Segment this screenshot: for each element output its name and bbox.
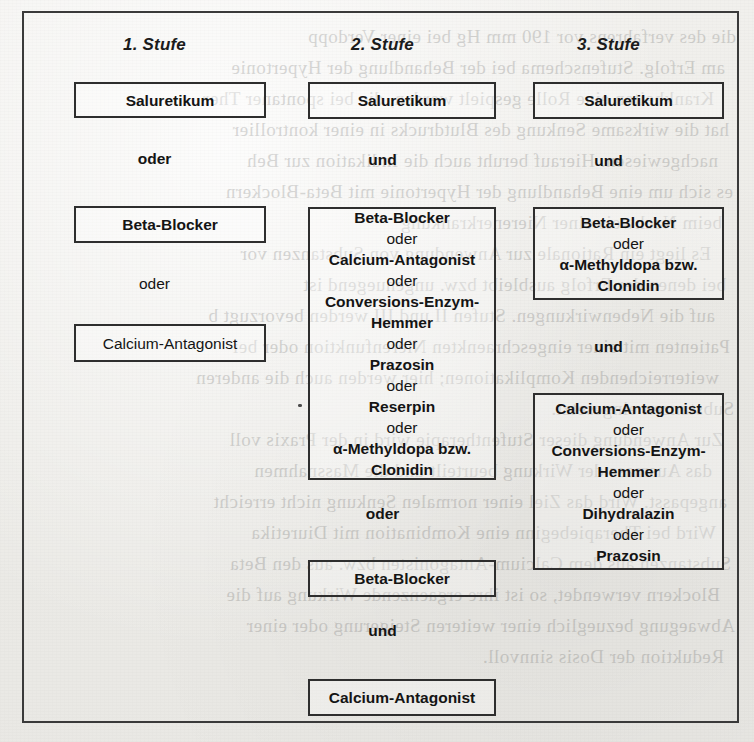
drug-box-conjunction: oder [386, 270, 417, 291]
drug-name: Calcium-Antagonist [555, 398, 701, 419]
drug-name: Dihydralazin [582, 503, 674, 524]
stage-connector: und [492, 152, 725, 170]
drug-name: Prazosin [596, 545, 661, 566]
scan-speck [298, 404, 302, 407]
drug-name: Conversions-Enzym- [325, 291, 479, 312]
stage-header-2: 2. Stufe [266, 35, 499, 55]
stage-connector: oder [266, 505, 499, 523]
drug-name: Conversions-Enzym- [551, 440, 705, 461]
drug-box: Calcium-Antagonist [74, 324, 266, 362]
drug-name: Clonidin [371, 459, 433, 480]
stage-header-1: 1. Stufe [38, 35, 271, 55]
drug-box: Beta-BlockeroderCalcium-AntagonistoderCo… [308, 207, 496, 480]
drug-box: Calcium-Antagonist [308, 679, 496, 716]
drug-box-conjunction: oder [613, 419, 644, 440]
drug-name: Beta-Blocker [354, 207, 450, 228]
drug-box: Calcium-AntagonistoderConversions-Enzym-… [533, 393, 724, 570]
drug-box-conjunction: oder [386, 417, 417, 438]
drug-name: Beta-Blocker [581, 212, 677, 233]
drug-box: Saluretikum [533, 82, 724, 119]
stage-header-3: 3. Stufe [492, 35, 725, 55]
drug-name: Hemmer [371, 312, 433, 333]
drug-name: Calcium-Antagonist [329, 687, 475, 708]
drug-box: Beta-Blockeroderα-Methyldopa bzw.Clonidi… [533, 207, 724, 300]
drug-name: Calcium-Antagonist [103, 333, 237, 354]
drug-box-conjunction: oder [386, 375, 417, 396]
drug-box-conjunction: oder [386, 228, 417, 249]
drug-name: Hemmer [597, 461, 659, 482]
drug-box: Saluretikum [308, 82, 496, 119]
stage-connector: oder [38, 150, 271, 168]
therapy-stage-chart-frame: 1. StufeSaluretikumoderBeta-BlockeroderC… [22, 11, 739, 723]
drug-name: Saluretikum [358, 90, 447, 111]
drug-box: Beta-Blocker [308, 560, 496, 597]
stage-connector: und [266, 151, 499, 169]
drug-name: α-Methyldopa bzw. [559, 254, 697, 275]
drug-name: Calcium-Antagonist [329, 249, 475, 270]
drug-name: Clonidin [598, 275, 660, 296]
drug-box: Saluretikum [74, 82, 266, 118]
drug-name: Reserpin [369, 396, 435, 417]
drug-name: Beta-Blocker [354, 568, 450, 589]
drug-box-conjunction: oder [386, 333, 417, 354]
drug-name: Saluretikum [584, 90, 673, 111]
stage-connector: und [266, 622, 499, 640]
stage-connector: oder [38, 275, 271, 293]
drug-box-conjunction: oder [613, 482, 644, 503]
drug-box: Beta-Blocker [74, 206, 266, 243]
drug-name: Saluretikum [126, 90, 215, 111]
stage-connector: und [492, 338, 725, 356]
drug-box-conjunction: oder [613, 524, 644, 545]
drug-name: Prazosin [370, 354, 435, 375]
drug-name: α-Methyldopa bzw. [333, 438, 471, 459]
drug-box-conjunction: oder [613, 233, 644, 254]
drug-name: Beta-Blocker [122, 214, 218, 235]
